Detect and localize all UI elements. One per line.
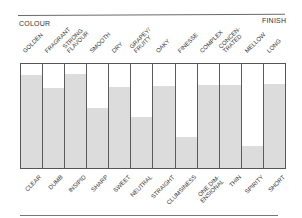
bottom-attribute-label: INSIPID (67, 174, 87, 194)
top-attribute-label: FINESSE (177, 32, 199, 54)
bar-fill (176, 137, 197, 168)
bar-fill (109, 87, 130, 168)
bottom-attribute-label: SPIRITY (244, 174, 265, 195)
bottom-rule (20, 215, 278, 216)
chart-grid (20, 63, 286, 169)
top-attribute-label: GRAPEY/ FRUITY (128, 27, 155, 54)
top-attribute-label: LONG (266, 38, 282, 54)
top-attribute-label: MELLOW (243, 31, 266, 54)
bottom-attribute-label: SHARP (90, 174, 109, 193)
bottom-attribute-label: THIN (228, 174, 242, 188)
bottom-attribute-label: DUMB (48, 174, 65, 191)
bar-column (87, 64, 109, 168)
bottom-attribute-label: SHORT (267, 174, 286, 193)
bar-fill (21, 75, 42, 168)
bottom-attribute-label: SWEET (112, 174, 131, 193)
bar-column (242, 64, 264, 168)
bar-column (65, 64, 87, 168)
bar-column (198, 64, 220, 168)
bar-fill (153, 86, 174, 168)
top-attribute-label: DRY (110, 41, 123, 54)
bar-column (21, 64, 43, 168)
bar-fill (220, 85, 241, 168)
bottom-attribute-label: CLEAR (24, 174, 42, 192)
bar-column (153, 64, 175, 168)
bar-fill (131, 117, 152, 168)
bar-column (109, 64, 131, 168)
top-attribute-label: GOLDEN (22, 32, 44, 54)
top-attribute-label: SMOOTH (88, 31, 111, 54)
bar-column (220, 64, 242, 168)
bar-fill (264, 84, 285, 168)
bar-column (43, 64, 65, 168)
colour-header: COLOUR (19, 20, 50, 27)
bar-fill (43, 88, 64, 168)
bar-fill (198, 85, 219, 168)
bar-fill (65, 74, 86, 168)
top-attribute-label: OAKY (155, 38, 171, 54)
bar-column (131, 64, 153, 168)
bar-column (176, 64, 198, 168)
bottom-attribute-label: ONE DIM- ENSIONAL (194, 174, 224, 204)
bar-fill (242, 146, 263, 168)
bar-fill (87, 108, 108, 168)
bar-column (264, 64, 285, 168)
top-rule (18, 14, 285, 16)
finish-header: FINISH (262, 17, 286, 24)
